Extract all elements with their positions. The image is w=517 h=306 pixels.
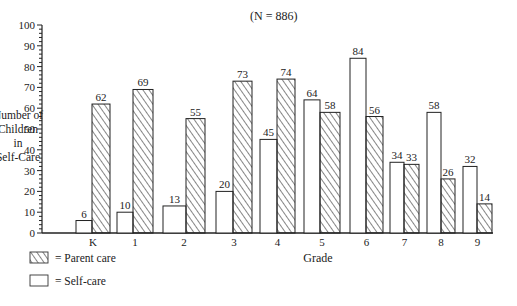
- x-tick-label: 5: [319, 236, 325, 248]
- bar-self-care: [216, 191, 233, 233]
- x-tick-label: 6: [364, 236, 370, 248]
- bar-self-care: [350, 58, 366, 233]
- data-label-self-care: 58: [429, 99, 441, 111]
- y-axis-label-line: in: [14, 137, 23, 149]
- y-tick-label: 30: [24, 165, 36, 177]
- data-label-self-care: 45: [263, 126, 275, 138]
- y-tick-label: 60: [24, 102, 36, 114]
- bar-parent-care: [404, 164, 419, 233]
- bar-self-care: [117, 212, 133, 233]
- data-label-parent-care: 58: [325, 99, 337, 111]
- bar-self-care: [463, 166, 477, 233]
- legend-swatch-self-care: [30, 275, 48, 286]
- y-tick-label: 80: [24, 61, 36, 73]
- x-tick-label: 8: [438, 236, 444, 248]
- data-label-self-care: 84: [353, 45, 365, 57]
- data-label-parent-care: 26: [443, 166, 455, 178]
- y-axis-label-line: Number of: [0, 109, 43, 121]
- y-axis-label: Number of Children in Self-Care: [0, 109, 43, 163]
- bar-self-care: [163, 206, 186, 233]
- x-tick-label: 4: [275, 236, 281, 248]
- bars: 662106913552073457464588456343358263214: [76, 45, 492, 233]
- data-label-self-care: 10: [120, 199, 132, 211]
- chart-title: (N = 886): [250, 9, 297, 23]
- bar-parent-care: [133, 89, 153, 233]
- bar-parent-care: [320, 112, 340, 233]
- y-tick-label: 40: [24, 144, 36, 156]
- bar-self-care: [304, 100, 320, 233]
- y-tick-label: 10: [24, 206, 36, 218]
- bar-parent-care: [186, 119, 205, 233]
- y-tick-label: 70: [24, 81, 36, 93]
- bar-parent-care: [92, 104, 110, 233]
- x-tick-label: 1: [132, 236, 138, 248]
- bar-self-care: [390, 162, 404, 233]
- bar-parent-care: [441, 179, 455, 233]
- x-tick-label: 2: [181, 236, 187, 248]
- data-label-self-care: 20: [219, 178, 231, 190]
- legend: = Parent care = Self-care: [30, 252, 116, 287]
- data-label-parent-care: 55: [190, 106, 202, 118]
- bar-self-care: [76, 221, 92, 233]
- x-tick-label: 3: [231, 236, 237, 248]
- x-axis-label: Grade: [303, 251, 332, 265]
- data-label-self-care: 6: [81, 208, 87, 220]
- legend-swatch-parent-care: [30, 252, 48, 263]
- data-label-self-care: 34: [392, 149, 404, 161]
- x-tick-label: 9: [475, 236, 481, 248]
- y-tick-label: 50: [24, 123, 36, 135]
- bar-self-care: [260, 139, 277, 233]
- bar-self-care: [427, 112, 441, 233]
- data-label-self-care: 64: [307, 87, 319, 99]
- y-tick-label: 90: [24, 40, 36, 52]
- data-label-self-care: 13: [169, 193, 181, 205]
- bar-parent-care: [477, 204, 492, 233]
- x-tick-label: 7: [402, 236, 408, 248]
- chart: (N = 886) Number of Children in Self-Car…: [0, 0, 517, 306]
- data-label-parent-care: 74: [281, 66, 293, 78]
- data-label-self-care: 32: [465, 153, 476, 165]
- bar-parent-care: [366, 117, 383, 233]
- data-label-parent-care: 14: [479, 191, 491, 203]
- data-label-parent-care: 73: [237, 68, 249, 80]
- y-tick-label: 0: [30, 227, 36, 239]
- y-tick-label: 100: [19, 19, 36, 31]
- bar-parent-care: [233, 81, 252, 233]
- legend-label-self-care: = Self-care: [55, 275, 106, 287]
- data-label-parent-care: 33: [406, 151, 418, 163]
- data-label-parent-care: 62: [96, 91, 107, 103]
- data-label-parent-care: 69: [138, 76, 150, 88]
- y-tick-label: 20: [24, 185, 36, 197]
- x-axis: K123456789: [42, 233, 493, 248]
- bar-parent-care: [277, 79, 295, 233]
- data-label-parent-care: 56: [369, 104, 381, 116]
- x-tick-label: K: [89, 236, 97, 248]
- legend-label-parent-care: = Parent care: [55, 252, 116, 264]
